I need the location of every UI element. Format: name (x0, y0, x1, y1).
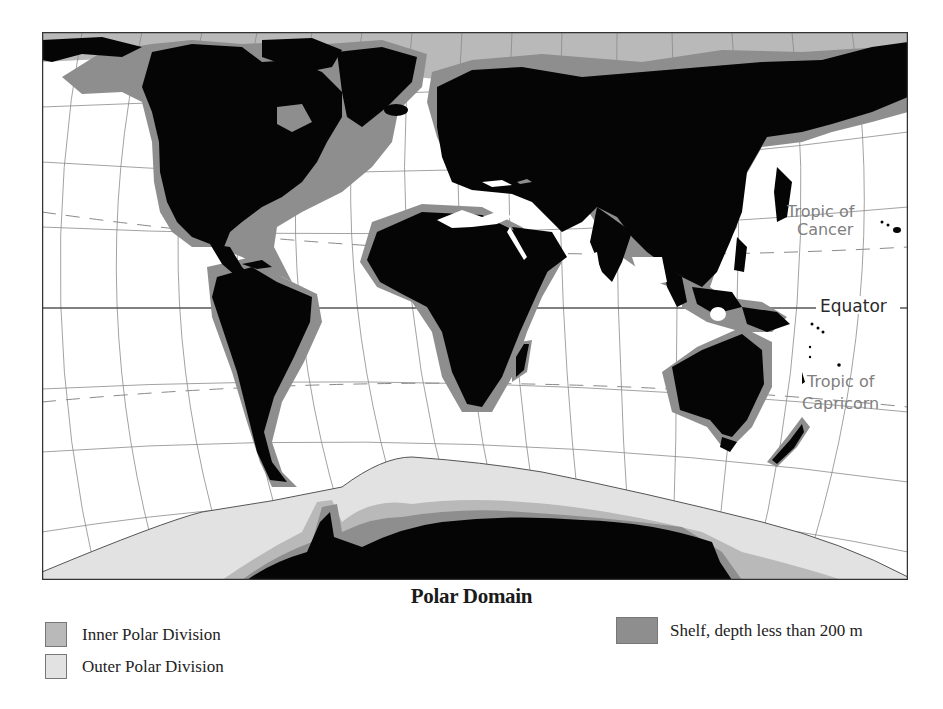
tropic-of-cancer-label-2: Cancer (797, 220, 854, 239)
tropic-of-capricorn-label-2: Capricorn (802, 394, 879, 413)
hawaii (893, 227, 901, 233)
legend-item-inner-polar: Inner Polar Division (45, 622, 221, 647)
legend-item-shelf: Shelf, depth less than 200 m (616, 617, 863, 644)
legend-label-outer-polar: Outer Polar Division (82, 657, 224, 677)
banda-sea (710, 307, 726, 321)
legend-label-shelf: Shelf, depth less than 200 m (670, 621, 863, 641)
legend-swatch-inner-polar (45, 622, 67, 647)
legend-label-inner-polar: Inner Polar Division (82, 625, 221, 645)
tropic-of-capricorn-label: Tropic of (806, 372, 875, 391)
world-map: Tropic of Cancer Equator Tropic of Capri… (42, 32, 908, 580)
legend-swatch-shelf (616, 617, 658, 644)
iceland (384, 104, 408, 116)
map-title: Polar Domain (0, 584, 943, 609)
tropic-of-cancer-label: Tropic of (786, 202, 855, 221)
legend-item-outer-polar: Outer Polar Division (45, 654, 224, 679)
legend-swatch-outer-polar (45, 654, 67, 679)
equator-label: Equator (820, 296, 887, 316)
